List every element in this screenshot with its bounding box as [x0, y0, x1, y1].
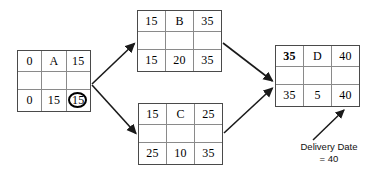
edge-c-to-d: [224, 88, 273, 133]
node-b-top-row: 15 B 35: [138, 11, 221, 32]
node-d-early-start: 35: [276, 46, 303, 66]
node-d-late-finish: 40: [331, 85, 359, 106]
node-d-duration: 5: [303, 85, 331, 106]
node-d-middle-right: [331, 67, 359, 83]
node-a-late-finish: 15: [66, 90, 90, 111]
node-a-middle-left: [18, 72, 41, 88]
node-d-middle-left: [276, 67, 303, 83]
network-diagram: 0 A 15 0 15 15 15 B 35 15 20 35: [0, 0, 377, 182]
node-b-early-finish: 35: [193, 11, 221, 31]
node-a-duration: 15: [41, 90, 65, 111]
node-c-duration: 10: [166, 143, 194, 164]
node-c-top-row: 15 C 25: [139, 104, 222, 125]
node-c-middle-center: [166, 125, 194, 141]
node-c-early-finish: 25: [194, 104, 222, 124]
node-b-middle-row: [138, 32, 221, 49]
node-a-top-row: 0 A 15: [18, 51, 90, 72]
node-b-duration: 20: [165, 50, 193, 71]
node-a-middle-right: [66, 72, 90, 88]
delivery-date-annotation: Delivery Date = 40: [283, 141, 375, 165]
node-c-bottom-row: 25 10 35: [139, 143, 222, 164]
node-a-late-start: 0: [18, 90, 41, 111]
edge-b-to-d: [223, 43, 273, 81]
node-d-middle-row: [276, 67, 359, 84]
node-b-label: B: [165, 11, 193, 31]
edge-a-to-c: [92, 85, 136, 134]
node-c-label: C: [166, 104, 194, 124]
node-b-bottom-row: 15 20 35: [138, 50, 221, 71]
node-b[interactable]: 15 B 35 15 20 35: [137, 10, 222, 72]
node-b-late-start: 15: [138, 50, 165, 71]
node-d-early-finish: 40: [331, 46, 359, 66]
node-c-late-start: 25: [139, 143, 166, 164]
node-a-middle-row: [18, 72, 90, 89]
node-c-middle-left: [139, 125, 166, 141]
node-a-middle-center: [41, 72, 65, 88]
node-a-label: A: [41, 51, 65, 71]
node-c-late-finish: 35: [194, 143, 222, 164]
edge-a-to-b: [92, 44, 135, 85]
node-a-early-start: 0: [18, 51, 41, 71]
node-b-late-finish: 35: [193, 50, 221, 71]
delivery-date-label: Delivery Date: [283, 141, 375, 153]
node-b-middle-left: [138, 32, 165, 48]
delivery-date-value: = 40: [283, 153, 375, 165]
node-a-early-finish: 15: [66, 51, 90, 71]
annotation-pointer: [313, 110, 344, 140]
node-a-bottom-row: 0 15 15: [18, 90, 90, 111]
node-c[interactable]: 15 C 25 25 10 35: [138, 103, 223, 165]
node-b-early-start: 15: [138, 11, 165, 31]
node-d-bottom-row: 35 5 40: [276, 85, 359, 106]
node-d-top-row: 35 D 40: [276, 46, 359, 67]
node-b-middle-center: [165, 32, 193, 48]
node-c-middle-right: [194, 125, 222, 141]
node-d-label: D: [303, 46, 331, 66]
node-b-middle-right: [193, 32, 221, 48]
node-d[interactable]: 35 D 40 35 5 40: [275, 45, 360, 107]
node-a[interactable]: 0 A 15 0 15 15: [17, 50, 91, 112]
node-d-late-start: 35: [276, 85, 303, 106]
node-c-early-start: 15: [139, 104, 166, 124]
node-d-middle-center: [303, 67, 331, 83]
node-c-middle-row: [139, 125, 222, 142]
